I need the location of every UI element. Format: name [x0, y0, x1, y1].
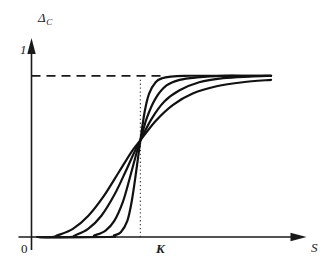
- curve-line: [38, 76, 272, 237]
- plot-canvas: [0, 0, 333, 266]
- y-axis-arrowhead: [27, 38, 35, 54]
- y-axis-label-symbol: Δ: [38, 10, 46, 25]
- x-axis-label: S: [311, 241, 318, 254]
- x-tick-label-k: K: [156, 242, 165, 255]
- curve-line: [38, 80, 272, 237]
- y-axis-label-subscript: C: [46, 17, 52, 27]
- origin-label: 0: [21, 242, 28, 255]
- y-tick-label-one: 1: [20, 43, 27, 56]
- y-axis-label: ΔC: [38, 11, 52, 27]
- x-axis-arrowhead: [291, 233, 307, 241]
- sigmoid-curves-figure: ΔC 1 0 K S: [0, 0, 333, 266]
